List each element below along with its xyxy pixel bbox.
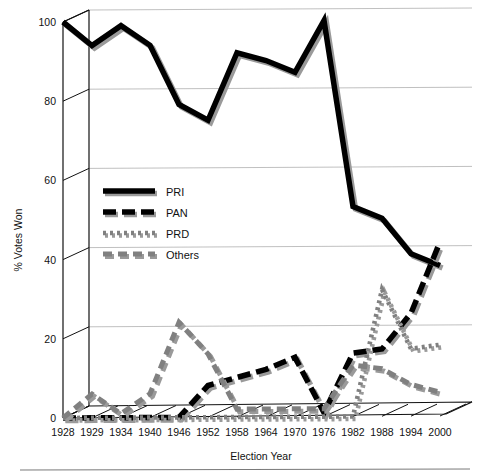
- x-axis-title: Election Year: [230, 450, 292, 462]
- y-tick-label-40: 40: [44, 254, 56, 266]
- legend-label-pan: PAN: [166, 207, 188, 219]
- chart-plot-area: 020406080100 192819291934194019461952195…: [0, 0, 479, 474]
- legend-label-others: Others: [166, 249, 200, 261]
- x-tick-label-1934: 1934: [109, 426, 133, 438]
- x-tick-label-1940: 1940: [138, 426, 162, 438]
- election-results-chart: 020406080100 192819291934194019461952195…: [0, 0, 479, 474]
- y-tick-label-0: 0: [50, 412, 56, 424]
- legend-label-prd: PRD: [166, 228, 189, 240]
- x-tick-label-1964: 1964: [254, 426, 278, 438]
- legend-label-pri: PRI: [166, 186, 184, 198]
- x-tick-label-1958: 1958: [225, 426, 249, 438]
- x-tick-label-1982: 1982: [341, 426, 365, 438]
- x-tick-label-1988: 1988: [370, 426, 394, 438]
- y-tick-label-20: 20: [44, 333, 56, 345]
- x-tick-label-2000: 2000: [428, 426, 452, 438]
- y-tick-label-100: 100: [38, 16, 56, 28]
- y-tick-label-60: 60: [44, 174, 56, 186]
- x-tick-label-1952: 1952: [196, 426, 220, 438]
- y-tick-label-80: 80: [44, 95, 56, 107]
- y-axis-title: % Votes Won: [12, 208, 24, 271]
- x-tick-label-1976: 1976: [312, 426, 336, 438]
- x-tick-label-1994: 1994: [399, 426, 423, 438]
- x-tick-label-1970: 1970: [283, 426, 307, 438]
- x-tick-label-1929: 1929: [80, 426, 104, 438]
- x-tick-label-1946: 1946: [167, 426, 191, 438]
- x-tick-label-1928: 1928: [51, 426, 75, 438]
